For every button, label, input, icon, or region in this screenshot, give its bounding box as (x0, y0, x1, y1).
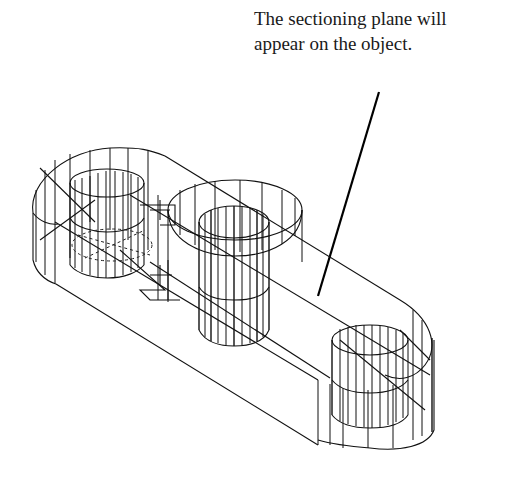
section-plane-symbol (120, 195, 180, 302)
wireframe-drawing (0, 0, 520, 490)
base-slab (33, 148, 434, 449)
middle-boss (168, 180, 302, 346)
leader-line (318, 92, 379, 296)
left-hole (70, 169, 152, 278)
sectioning-plane (130, 195, 430, 378)
